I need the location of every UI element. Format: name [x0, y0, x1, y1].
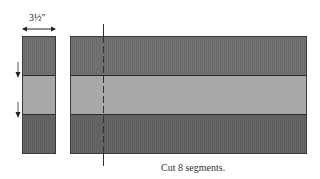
strip-set-outline [70, 36, 307, 154]
strip-set [70, 36, 307, 154]
cut-segment [22, 36, 56, 154]
cut-line [102, 24, 105, 166]
diagram-caption: Cut 8 segments. [161, 162, 225, 173]
segment-outline [22, 36, 56, 154]
press-arrow-down-icon [15, 62, 21, 78]
dimension-label: 3½″ [29, 12, 46, 23]
double-arrow-icon [21, 25, 57, 33]
press-arrow-down-icon [15, 102, 21, 118]
